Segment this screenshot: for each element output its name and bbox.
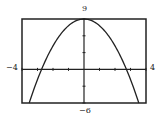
xmin-label: −4 — [6, 64, 18, 72]
axes — [22, 19, 146, 103]
graph-plot — [0, 0, 160, 117]
ymax-label: 9 — [82, 5, 87, 13]
xmax-label: 4 — [150, 64, 155, 72]
ymin-label: −6 — [79, 107, 91, 115]
